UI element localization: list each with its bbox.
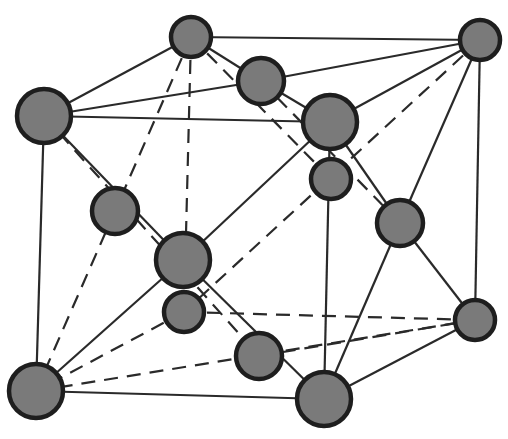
atom-A3: [17, 89, 71, 143]
atom-A8: [156, 233, 210, 287]
crystal-structure-diagram: [0, 0, 508, 439]
solid-bond-A12-A13: [36, 391, 324, 399]
dashed-bond-A6-A12: [36, 211, 115, 391]
atom-A6: [92, 188, 138, 234]
dashed-bond-A9-A10: [184, 312, 475, 320]
atoms-layer: [9, 17, 500, 426]
atom-A12: [9, 364, 63, 418]
atom-A10: [455, 300, 495, 340]
dashed-bond-A0-A6: [115, 37, 191, 211]
atom-A11: [236, 333, 282, 379]
atom-A7: [377, 200, 423, 246]
solid-bond-A1-A10: [475, 40, 480, 320]
atom-A9: [164, 292, 204, 332]
atom-A1: [460, 20, 500, 60]
atom-A2: [238, 58, 284, 104]
lattice-svg: [0, 0, 508, 439]
solid-bond-A1-A2: [261, 40, 480, 81]
solid-bond-A3-A12: [36, 116, 44, 391]
atom-A13: [297, 372, 351, 426]
solid-bond-A3-A4: [44, 116, 330, 122]
solid-bond-A1-A7: [400, 40, 480, 223]
dashed-bond-A3-A11: [44, 116, 259, 356]
atom-A5: [311, 159, 351, 199]
atom-A0: [171, 17, 211, 57]
atom-A4: [303, 95, 357, 149]
solid-bond-A0-A1: [191, 37, 480, 40]
solid-bond-A4-A8: [183, 122, 330, 260]
